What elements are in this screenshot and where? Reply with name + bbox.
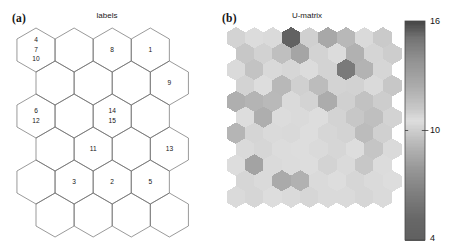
figure-canvas: (a) labels 471081961214151113325 (b) U-m…	[0, 0, 455, 252]
hex-cell-label: 13	[166, 145, 174, 152]
hex-cell-label: 7	[34, 46, 38, 53]
hex-cell-label: 2	[110, 178, 114, 185]
label-hex-cell: 5	[131, 160, 169, 204]
colorbar-tick-label: 16	[430, 16, 440, 26]
labels-hex-map: 471081961214151113325	[6, 24, 196, 239]
label-hex-cell: 1	[131, 28, 169, 72]
hex-cell-label: 8	[110, 46, 114, 53]
colorbar-tick-label: 4	[430, 233, 435, 243]
panel-b-tag: (b)	[222, 12, 237, 24]
hex-cell-label: 10	[32, 55, 40, 62]
panel-b-title: U-matrix	[270, 11, 344, 20]
label-hex-cell	[131, 94, 169, 138]
label-hex-cell	[36, 127, 74, 171]
hex-cell-label: 3	[72, 178, 76, 185]
label-hex-cell	[17, 160, 55, 204]
label-hex-cell	[74, 193, 112, 237]
label-hex-cell: 1415	[93, 94, 131, 138]
label-hex-cell	[36, 193, 74, 237]
umatrix-hex-map	[222, 24, 402, 240]
colorbar-tick-label: 10	[430, 125, 440, 135]
label-hex-cell	[112, 61, 150, 105]
hex-cell-label: 11	[90, 145, 97, 152]
label-hex-cell: 612	[17, 94, 55, 138]
label-hex-cell	[55, 28, 93, 72]
label-hex-cell: 8	[93, 28, 131, 72]
label-hex-cell: 11	[74, 127, 112, 171]
hex-cell-label: 6	[34, 107, 38, 114]
label-hex-cell	[112, 127, 150, 171]
label-hex-cell: 13	[150, 127, 188, 171]
label-hex-cell: 3	[55, 160, 93, 204]
label-hex-cell	[55, 94, 93, 138]
label-hex-cell	[36, 61, 74, 105]
hex-cell-label: 12	[32, 117, 40, 124]
hex-cell-label: 4	[34, 36, 38, 43]
panel-a-title: labels	[80, 11, 134, 20]
umatrix-colorbar: 16104	[403, 12, 455, 248]
label-hex-cell	[112, 193, 150, 237]
hex-cell-label: 14	[109, 107, 117, 114]
hex-cell-label: 15	[109, 117, 117, 124]
label-hex-cell	[150, 193, 188, 237]
label-hex-cell: 2	[93, 160, 131, 204]
hex-cell-label: 1	[148, 46, 152, 53]
hex-cell-label: 5	[148, 178, 152, 185]
hex-cell-label: 9	[168, 79, 172, 86]
label-hex-cell: 4710	[17, 28, 55, 72]
label-hex-cell: 9	[150, 61, 188, 105]
panel-a-tag: (a)	[12, 12, 26, 24]
label-hex-cell	[74, 61, 112, 105]
